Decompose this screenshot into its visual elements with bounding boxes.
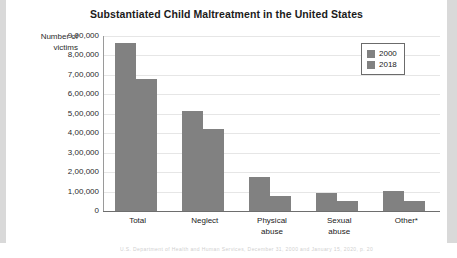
legend-item: 2018: [367, 60, 397, 69]
x-axis-category-label: Other*: [365, 216, 448, 227]
bar: [316, 193, 337, 211]
bar: [182, 111, 203, 211]
y-axis-tick-label: 8,00,000: [41, 50, 99, 59]
page-background: Substantiated Child Maltreatment in the …: [0, 0, 457, 258]
legend-swatch-icon: [367, 50, 375, 58]
y-axis-tick-label: 7,00,000: [41, 70, 99, 79]
legend-label: 2018: [379, 60, 397, 69]
chart-legend: 20002018: [361, 43, 405, 75]
y-axis-tick-labels: 9,00,0008,00,0007,00,0006,00,0005,00,000…: [39, 0, 99, 258]
x-axis-line: [103, 211, 440, 212]
bar: [136, 79, 157, 211]
y-axis-tick-label: 5,00,000: [41, 109, 99, 118]
legend-swatch-icon: [367, 61, 375, 69]
bar: [115, 43, 136, 211]
y-axis-tick-label: 0: [41, 206, 99, 215]
source-footnote: U.S. Department of Health and Human Serv…: [120, 246, 450, 252]
y-axis-tick-label: 2,00,000: [41, 167, 99, 176]
bar: [383, 191, 404, 211]
bar: [270, 196, 291, 211]
y-axis-tick-label: 3,00,000: [41, 148, 99, 157]
bar: [404, 201, 425, 211]
bar: [249, 177, 270, 211]
legend-item: 2000: [367, 49, 397, 58]
bar: [337, 201, 358, 211]
y-axis-tick-label: 1,00,000: [41, 187, 99, 196]
y-axis-tick-label: 9,00,000: [41, 31, 99, 40]
chart-sheet: Substantiated Child Maltreatment in the …: [6, 0, 447, 243]
legend-label: 2000: [379, 49, 397, 58]
y-axis-tick-label: 4,00,000: [41, 128, 99, 137]
y-axis-tick-label: 6,00,000: [41, 89, 99, 98]
bar: [203, 129, 224, 211]
